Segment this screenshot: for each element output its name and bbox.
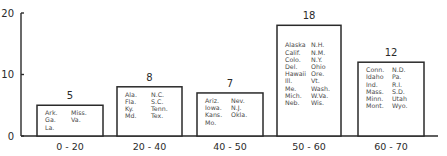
state-abbreviation: N.C. (151, 91, 164, 98)
state-abbreviation: N.Y. (311, 56, 322, 63)
state-abbreviation: Ohio (311, 63, 326, 70)
state-abbreviation: Md. (125, 112, 136, 119)
state-abbreviation: Calif. (285, 49, 301, 56)
x-tick-label: 20 - 40 (133, 141, 167, 152)
state-abbreviation: Conn. (366, 66, 384, 73)
state-abbreviation: Ga. (45, 116, 56, 123)
bar-group: 1260 - 70Conn.IdahoInd.Mass.Minn.Mont.N.… (358, 47, 424, 152)
state-abbreviation: Minn. (366, 95, 383, 102)
state-abbreviation: Hawaii (285, 70, 306, 77)
state-abbreviation: Me. (285, 85, 296, 92)
x-tick-label: 0 - 20 (56, 141, 84, 152)
state-abbreviation: Ind. (366, 81, 378, 88)
state-abbreviation: Del. (285, 63, 297, 70)
state-abbreviation: Ala. (125, 91, 137, 98)
data-label: 5 (67, 90, 73, 101)
state-abbreviation: Fla. (125, 98, 136, 105)
state-abbreviation: Mont. (366, 102, 384, 109)
state-abbreviation: W.Va. (311, 92, 328, 99)
state-abbreviation: Nev. (231, 97, 245, 104)
state-abbreviation: Tenn. (150, 105, 168, 112)
state-abbreviation: Wis. (311, 99, 324, 106)
state-abbreviation: Ariz. (205, 97, 219, 104)
state-abbreviation: Okla. (231, 111, 247, 118)
state-abbreviation: Vt. (311, 77, 320, 84)
y-tick-label: 10 (1, 69, 14, 80)
state-abbreviation: Utah (392, 95, 407, 102)
state-abbreviation: Va. (71, 116, 81, 123)
state-abbreviation: Idaho (366, 73, 384, 80)
state-abbreviation: Alaska (285, 41, 306, 48)
bar-group: 1850 - 60AlaskaCalif.Colo.Del.HawaiiIll.… (277, 10, 341, 152)
state-abbreviation: S.D. (392, 88, 405, 95)
state-abbreviation: Ore. (311, 70, 324, 77)
state-abbreviation: Ill. (285, 77, 292, 84)
state-abbreviation: Pa. (392, 73, 401, 80)
x-tick-label: 60 - 70 (374, 141, 408, 152)
state-abbreviation: Kans. (205, 111, 222, 118)
state-abbreviation: Miss. (71, 109, 87, 116)
state-abbreviation: Wyo. (392, 102, 408, 110)
state-abbreviation: R.I. (392, 81, 402, 88)
state-abbreviation: Mass. (366, 88, 384, 95)
bar-group: 740 - 50Ariz.Iowa.Kans.Mo.Nev.N.J.Okla. (197, 78, 263, 152)
y-tick-label: 0 (8, 131, 14, 142)
bars: 50 - 20Ark.Ga.La.Miss.Va.820 - 40Ala.Fla… (37, 10, 424, 152)
data-label: 8 (146, 72, 152, 83)
state-abbreviation: Mo. (205, 119, 216, 126)
state-abbreviation: N.M. (311, 49, 325, 56)
state-abbreviation: S.C. (151, 98, 163, 105)
state-abbreviation: Iowa. (205, 104, 222, 111)
state-abbreviation: Neb. (285, 99, 300, 106)
bar-group: 820 - 40Ala.Fla.Ky.Md.N.C.S.C.Tenn.Tex. (117, 72, 182, 152)
state-abbreviation: Mich. (285, 92, 302, 99)
bar-chart: 01020 50 - 20Ark.Ga.La.Miss.Va.820 - 40A… (0, 0, 447, 156)
bar-group: 50 - 20Ark.Ga.La.Miss.Va. (37, 90, 103, 152)
state-abbreviation: N.H. (311, 41, 324, 48)
data-label: 18 (303, 10, 316, 21)
state-abbreviation: Tex. (150, 112, 163, 119)
x-tick-label: 40 - 50 (213, 141, 247, 152)
data-label: 12 (385, 47, 398, 58)
state-abbreviation: Colo. (285, 56, 301, 63)
data-label: 7 (227, 78, 233, 89)
state-abbreviation: Ark. (45, 109, 58, 116)
y-tick-label: 20 (1, 8, 14, 19)
x-tick-label: 50 - 60 (292, 141, 326, 152)
state-abbreviation: N.D. (392, 66, 406, 73)
state-abbreviation: La. (45, 124, 54, 131)
state-abbreviation: Wash. (311, 85, 330, 92)
